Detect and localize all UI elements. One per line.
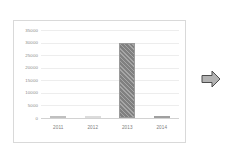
plot-area: 05000100001500020000250003000035000: [41, 30, 179, 118]
bars-layer: [41, 30, 179, 118]
bar-slot-2012[interactable]: [76, 30, 111, 118]
x-tick-label-2014: 2014: [145, 124, 180, 132]
bar-chart-frame: 05000100001500020000250003000035000 2011…: [13, 20, 186, 143]
y-tick-label: 0: [35, 115, 38, 122]
arrow-right-icon: [199, 67, 223, 91]
axis-baseline: [41, 118, 179, 119]
y-tick-label: 30000: [25, 39, 38, 46]
x-axis-labels: 2011201220132014: [41, 124, 179, 132]
x-tick-label-2012: 2012: [76, 124, 111, 132]
x-tick-label-2013: 2013: [110, 124, 145, 132]
bar-slot-2013[interactable]: [110, 30, 145, 118]
bar-2011[interactable]: [50, 116, 66, 118]
y-tick-label: 10000: [25, 89, 38, 96]
y-tick-label: 25000: [25, 52, 38, 59]
bar-2013[interactable]: [119, 43, 135, 118]
y-tick-label: 5000: [28, 102, 38, 109]
bar-slot-2011[interactable]: [41, 30, 76, 118]
bar-2012[interactable]: [85, 116, 101, 118]
y-tick-label: 15000: [25, 77, 38, 84]
bar-slot-2014[interactable]: [145, 30, 180, 118]
y-tick-label: 35000: [25, 27, 38, 34]
x-tick-label-2011: 2011: [41, 124, 76, 132]
bar-2014[interactable]: [154, 116, 170, 118]
y-tick-label: 20000: [25, 64, 38, 71]
